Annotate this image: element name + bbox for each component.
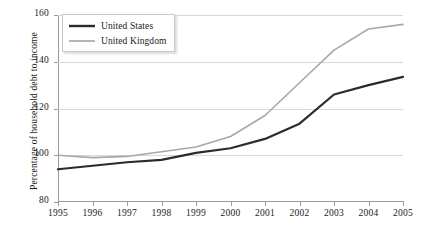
chart-legend: United States United Kingdom (62, 14, 175, 52)
x-axis-tick-label: 1995 (48, 208, 68, 218)
line-chart: Percentage of household debt to income 8… (0, 0, 422, 236)
y-axis-tick-label: 140 (34, 55, 49, 65)
x-axis-tick (403, 201, 404, 206)
y-axis-tick-label: 80 (39, 195, 49, 205)
x-axis-tick-label: 1996 (83, 208, 103, 218)
legend-label-united-kingdom: United Kingdom (101, 36, 167, 46)
series-line-united-states (58, 77, 403, 169)
legend-item-united-states: United States (69, 19, 167, 32)
legend-label-united-states: United States (101, 21, 153, 31)
x-axis-tick-label: 2004 (359, 208, 379, 218)
x-axis-tick-label: 2005 (393, 208, 413, 218)
legend-item-united-kingdom: United Kingdom (69, 34, 167, 47)
x-axis-tick-label: 2002 (290, 208, 310, 218)
y-axis-tick-label: 100 (34, 148, 49, 158)
x-axis-tick-label: 1998 (152, 208, 172, 218)
y-axis-tick-label: 160 (34, 8, 49, 18)
x-axis-tick-label: 2003 (324, 208, 344, 218)
x-axis-tick-label: 2001 (255, 208, 275, 218)
x-axis-tick-label: 1999 (186, 208, 206, 218)
legend-swatch-united-kingdom (69, 38, 95, 44)
x-axis-tick-label: 2000 (221, 208, 241, 218)
x-axis-tick-label: 1997 (117, 208, 137, 218)
legend-swatch-united-states (69, 23, 95, 29)
y-axis-tick-label: 120 (34, 102, 49, 112)
